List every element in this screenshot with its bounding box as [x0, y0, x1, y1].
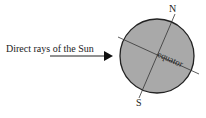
sun-ray-arrowhead	[104, 51, 113, 61]
rays-label: Direct rays of the Sun	[6, 43, 94, 54]
north-label: N	[169, 3, 176, 14]
south-label: S	[136, 97, 142, 108]
